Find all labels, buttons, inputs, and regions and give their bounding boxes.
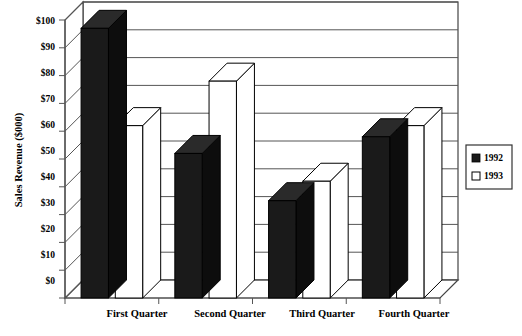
y-tick-label: $70 (41, 94, 56, 104)
y-tick-label: $60 (41, 120, 56, 130)
y-tick-label: $10 (41, 250, 56, 260)
y-tick-label: $40 (41, 172, 56, 182)
bar-side-face (330, 163, 348, 298)
y-tick-label: $100 (36, 16, 55, 26)
y-axis-tick-labels: $100 $90 $80 $70 $60 $50 $40 $30 $20 $10… (36, 16, 55, 286)
legend-swatch-1993 (472, 172, 480, 180)
x-tick-label: First Quarter (107, 308, 168, 319)
chart-container: Sales Revenue ($000) $100 $90 $80 $70 $6… (0, 0, 522, 336)
y-tick-label: $80 (41, 68, 56, 78)
bar-side-face (108, 10, 126, 298)
legend-box (466, 145, 512, 189)
legend-label-1993: 1993 (484, 171, 503, 181)
bar-front-face (81, 28, 108, 298)
x-tick-label: Third Quarter (289, 308, 355, 319)
plot-area (59, 2, 458, 304)
bar-front-face (175, 153, 202, 298)
bar-side-face (424, 108, 442, 298)
bar-1992-third-quarter (269, 183, 314, 298)
y-axis-title: Sales Revenue ($000) (13, 112, 25, 207)
y-tick-label: $30 (41, 198, 56, 208)
bar-side-face (296, 183, 314, 298)
bar-side-face (390, 119, 408, 298)
y-tick-label: $50 (41, 146, 56, 156)
bar-1992-fourth-quarter (362, 119, 407, 298)
y-axis-title-label: Sales Revenue ($000) (13, 112, 25, 207)
bar-side-face (143, 108, 161, 298)
x-tick-label: Fourth Quarter (379, 308, 450, 319)
x-tick-label: Second Quarter (194, 308, 266, 319)
x-axis-tick-labels: First Quarter Second Quarter Third Quart… (107, 308, 450, 319)
bar-side-face (236, 63, 254, 298)
bar-chart-3d: Sales Revenue ($000) $100 $90 $80 $70 $6… (0, 0, 522, 336)
bar-1992-second-quarter (175, 135, 220, 298)
legend-label-1992: 1992 (484, 153, 503, 163)
bar-front-face (362, 137, 389, 298)
legend-swatch-1992 (472, 154, 480, 162)
y-tick-label: $0 (46, 276, 56, 286)
bar-side-face (202, 135, 220, 298)
y-tick-label: $90 (41, 42, 56, 52)
bar-front-face (269, 201, 296, 298)
bar-1992-first-quarter (81, 10, 126, 298)
legend: 1992 1993 (466, 145, 512, 189)
y-tick-label: $20 (41, 224, 56, 234)
